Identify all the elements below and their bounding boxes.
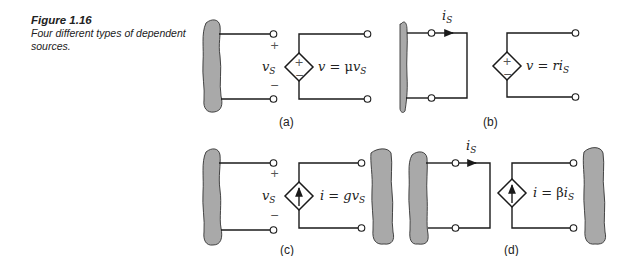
terminal-node bbox=[452, 160, 459, 167]
terminal-node bbox=[270, 227, 277, 234]
dependent-sources-diagram: + − vS + − v = μvS (a) iS + − bbox=[0, 0, 635, 256]
terminal-node bbox=[270, 160, 277, 167]
panel-d: iS i = βiS (d) bbox=[409, 138, 606, 256]
wire bbox=[299, 163, 358, 182]
wire bbox=[512, 163, 570, 179]
terminal-node bbox=[270, 96, 277, 103]
panel-label-c: (c) bbox=[280, 243, 294, 256]
panel-label-a: (a) bbox=[279, 115, 294, 129]
minus-sign: − bbox=[270, 79, 279, 92]
terminal-node bbox=[570, 160, 577, 167]
short-circuit-wire bbox=[435, 33, 467, 98]
terminal-node bbox=[572, 30, 579, 37]
panel-label-b: (b) bbox=[483, 115, 498, 129]
network-blob-icon bbox=[400, 22, 407, 112]
source-equation: i = gvS bbox=[320, 188, 365, 205]
source-equation: i = βiS bbox=[533, 185, 574, 202]
control-current-label: iS bbox=[466, 138, 476, 155]
panel-a: + − vS + − v = μvS (a) bbox=[203, 20, 371, 129]
control-voltage-label: vS bbox=[262, 59, 276, 76]
source-equation: v = riS bbox=[526, 58, 569, 75]
source-minus: − bbox=[295, 69, 304, 82]
panel-label-d: (d) bbox=[504, 243, 519, 256]
terminal-node bbox=[428, 30, 435, 37]
load-blob-icon bbox=[371, 149, 394, 244]
terminal-node bbox=[452, 225, 459, 232]
network-blob-icon bbox=[203, 149, 222, 245]
terminal-node bbox=[428, 95, 435, 102]
wire bbox=[299, 34, 364, 53]
terminal-node bbox=[364, 31, 371, 38]
short-circuit-wire bbox=[459, 163, 490, 228]
terminal-node bbox=[572, 94, 579, 101]
panel-b: iS + − v = riS (b) bbox=[400, 8, 579, 129]
load-blob-icon bbox=[583, 148, 605, 245]
wire bbox=[512, 207, 570, 228]
plus-sign: + bbox=[270, 167, 279, 180]
network-blob-icon bbox=[409, 152, 428, 244]
panel-c: + − vS i = gvS (c) bbox=[203, 149, 394, 256]
control-voltage-label: vS bbox=[262, 188, 276, 205]
plus-sign: + bbox=[270, 39, 279, 52]
terminal-node bbox=[358, 225, 365, 232]
wire bbox=[299, 210, 358, 228]
source-equation: v = μvS bbox=[318, 59, 367, 76]
source-minus: − bbox=[503, 68, 512, 81]
wire bbox=[299, 81, 364, 99]
terminal-node bbox=[270, 31, 277, 38]
terminal-node bbox=[364, 96, 371, 103]
terminal-node bbox=[358, 160, 365, 167]
source-plus: + bbox=[295, 56, 304, 69]
terminal-node bbox=[570, 225, 577, 232]
minus-sign: − bbox=[270, 209, 279, 222]
control-current-label: iS bbox=[442, 8, 452, 25]
wire bbox=[507, 80, 572, 97]
wire bbox=[507, 33, 572, 52]
source-plus: + bbox=[503, 55, 512, 68]
